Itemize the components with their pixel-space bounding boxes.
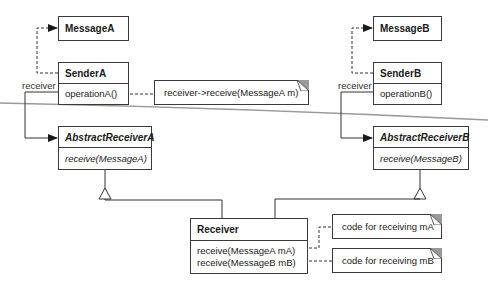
- note-text: code for receiving mB: [342, 255, 434, 266]
- operation: receive(MessageB mB): [197, 257, 301, 269]
- class-message-a: MessageA: [58, 16, 129, 41]
- operations-compartment: receive(MessageA): [59, 147, 151, 169]
- class-message-b: MessageB: [373, 16, 442, 41]
- operation: receive(MessageA mA): [197, 245, 301, 257]
- class-abstract-receiver-b: AbstractReceiverB receive(MessageB): [373, 126, 469, 170]
- operations-compartment: receive(MessageB): [374, 147, 468, 169]
- note-receive-a: code for receiving mA: [332, 214, 442, 239]
- note-text: code for receiving mA: [342, 221, 434, 232]
- class-receiver: Receiver receive(MessageA mA) receive(Me…: [190, 218, 308, 274]
- note-fold-icon: [430, 248, 442, 259]
- class-sender-b: SenderB operationB(): [373, 62, 442, 105]
- operation: receive(MessageA): [65, 153, 145, 165]
- class-name: SenderB: [374, 63, 441, 83]
- operation: operationA(): [65, 88, 122, 100]
- class-name: Receiver: [191, 219, 307, 240]
- role-label-receiver-b: receiver: [338, 80, 372, 91]
- class-name: AbstractReceiverA: [59, 127, 151, 147]
- class-name: MessageA: [59, 17, 128, 40]
- note-fold-icon: [430, 214, 442, 225]
- class-name: AbstractReceiverB: [374, 127, 468, 147]
- class-abstract-receiver-a: AbstractReceiverA receive(MessageA): [58, 126, 152, 170]
- role-label-receiver-a: receiver: [22, 80, 56, 91]
- class-sender-a: SenderA operationA(): [58, 62, 129, 105]
- note-text: receiver->receive(MessageA m): [164, 87, 298, 98]
- note-receive-b: code for receiving mB: [332, 248, 442, 273]
- operations-compartment: receive(MessageA mA) receive(MessageB mB…: [191, 240, 307, 273]
- note-fold-icon: [297, 80, 309, 91]
- operation: operationB(): [380, 88, 435, 100]
- class-name: SenderA: [59, 63, 128, 83]
- operation: receive(MessageB): [380, 153, 462, 165]
- operations-compartment: operationA(): [59, 83, 128, 104]
- class-name: MessageB: [374, 17, 441, 40]
- note-sender-a: receiver->receive(MessageA m): [154, 80, 309, 105]
- operations-compartment: operationB(): [374, 83, 441, 104]
